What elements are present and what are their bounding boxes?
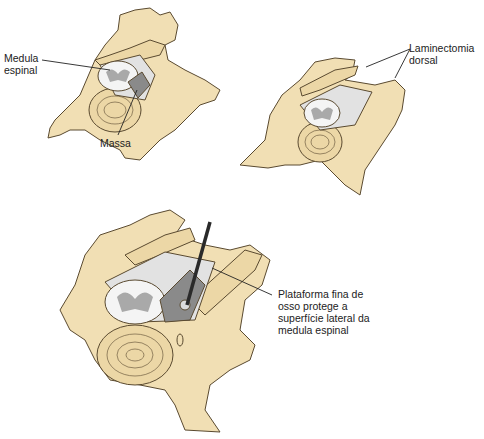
label-laminectomy: Laminectomia dorsal (409, 42, 474, 66)
leader-line-laminectomy-a (366, 49, 410, 67)
label-spinal-cord: Medula espinal (4, 52, 38, 76)
label-mass: Massa (100, 137, 131, 149)
label-bone-shelf: Plataforma fina de osso protege a superf… (278, 288, 370, 336)
vertebra-with-mass (48, 8, 220, 160)
vertebra-laminectomy (240, 58, 405, 195)
vertebra-bone-shelf (60, 210, 270, 432)
leader-line-laminectomy-b (395, 49, 410, 78)
